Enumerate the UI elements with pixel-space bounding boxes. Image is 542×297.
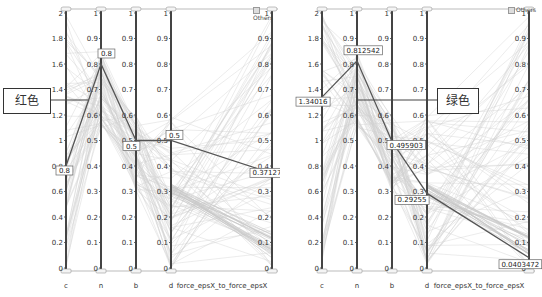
- svg-text:0.3: 0.3: [122, 188, 133, 196]
- legend-swatch-icon: [508, 7, 515, 14]
- svg-text:0: 0: [129, 265, 133, 273]
- svg-text:0.1: 0.1: [87, 239, 98, 247]
- svg-text:0: 0: [385, 265, 389, 273]
- svg-text:0: 0: [164, 265, 168, 273]
- svg-text:0.2: 0.2: [157, 214, 168, 222]
- axis-label: c: [64, 282, 68, 290]
- svg-text:0.8: 0.8: [343, 61, 354, 69]
- svg-text:0.4: 0.4: [157, 163, 169, 171]
- value-label-n: 0.8: [98, 49, 115, 58]
- svg-text:0.2: 0.2: [87, 214, 98, 222]
- svg-text:0: 0: [94, 265, 98, 273]
- axis-label: d: [169, 282, 173, 290]
- svg-text:0.2: 0.2: [378, 214, 389, 222]
- svg-text:0.8: 0.8: [515, 61, 526, 69]
- svg-text:1.4: 1.4: [308, 86, 320, 94]
- right-parallel-plot: 00.20.40.60.811.21.41.61.82c00.10.20.30.…: [256, 0, 542, 297]
- svg-text:0.2: 0.2: [122, 214, 133, 222]
- svg-text:1.8: 1.8: [308, 35, 319, 43]
- svg-text:0.6: 0.6: [308, 188, 320, 196]
- svg-text:0.6: 0.6: [343, 112, 355, 120]
- svg-text:0.9: 0.9: [343, 35, 354, 43]
- svg-text:0.7: 0.7: [122, 86, 133, 94]
- svg-text:1: 1: [59, 137, 63, 145]
- svg-text:0.4: 0.4: [87, 163, 99, 171]
- axis-label: b: [390, 282, 395, 290]
- legend-others[interactable]: Others: [508, 6, 536, 14]
- svg-text:0.5: 0.5: [515, 137, 526, 145]
- svg-text:0.7: 0.7: [343, 86, 354, 94]
- axis-label: force_epsX_to_force_epsX: [177, 282, 268, 290]
- svg-text:0.5: 0.5: [343, 137, 354, 145]
- svg-text:0.9: 0.9: [122, 35, 133, 43]
- svg-text:0.9: 0.9: [515, 35, 526, 43]
- svg-text:0.3: 0.3: [515, 188, 526, 196]
- svg-text:1.6: 1.6: [308, 61, 320, 69]
- svg-text:1: 1: [315, 137, 319, 145]
- svg-text:0.4: 0.4: [52, 214, 64, 222]
- svg-text:0.4: 0.4: [413, 163, 425, 171]
- svg-text:0.495903: 0.495903: [389, 142, 422, 150]
- svg-text:0.1: 0.1: [122, 239, 133, 247]
- svg-text:0.1: 0.1: [157, 239, 168, 247]
- svg-text:0.6: 0.6: [157, 112, 169, 120]
- callout-label: 绿色: [446, 94, 470, 108]
- value-label-d: 0.29255: [395, 195, 429, 204]
- svg-text:0.4: 0.4: [515, 163, 527, 171]
- svg-text:1.34016: 1.34016: [299, 98, 328, 106]
- axis-label: b: [134, 282, 139, 290]
- svg-text:0.4: 0.4: [308, 214, 320, 222]
- svg-text:0.8: 0.8: [378, 61, 389, 69]
- svg-text:0.7: 0.7: [413, 86, 424, 94]
- value-label-d: 0.5: [166, 131, 183, 140]
- svg-text:0: 0: [59, 265, 63, 273]
- svg-text:0.9: 0.9: [378, 35, 389, 43]
- value-label-b: 0.495903: [387, 141, 425, 150]
- callout-green: 绿色: [437, 88, 479, 114]
- svg-text:0.2: 0.2: [413, 214, 424, 222]
- svg-text:0.6: 0.6: [87, 112, 99, 120]
- svg-text:1.2: 1.2: [52, 112, 63, 120]
- svg-text:0.0403472: 0.0403472: [501, 261, 539, 269]
- axis-c[interactable]: 00.20.40.60.811.21.41.61.82c: [52, 7, 71, 290]
- svg-text:2: 2: [59, 10, 63, 18]
- svg-text:0.1: 0.1: [378, 239, 389, 247]
- svg-text:0.1: 0.1: [343, 239, 354, 247]
- axis-label: n: [99, 282, 103, 290]
- svg-text:1.4: 1.4: [52, 86, 64, 94]
- svg-text:0.8: 0.8: [122, 61, 133, 69]
- left-plot-canvas: 00.20.40.60.811.21.41.61.82c00.10.20.30.…: [0, 0, 280, 297]
- svg-text:0.7: 0.7: [515, 86, 526, 94]
- svg-text:0.1: 0.1: [413, 239, 424, 247]
- svg-text:1: 1: [385, 10, 389, 18]
- legend-label: Others: [516, 6, 536, 13]
- value-label-b: 0.5: [123, 142, 140, 151]
- svg-text:0.2: 0.2: [308, 239, 319, 247]
- svg-text:1: 1: [420, 10, 424, 18]
- svg-text:0.2: 0.2: [52, 239, 63, 247]
- svg-text:1.8: 1.8: [52, 35, 63, 43]
- svg-text:1: 1: [164, 10, 168, 18]
- svg-text:0.8: 0.8: [87, 61, 98, 69]
- svg-text:0.5: 0.5: [126, 143, 137, 151]
- axis-d[interactable]: 00.10.20.30.40.50.60.70.80.91d: [157, 7, 176, 290]
- callout-red: 红色: [3, 88, 51, 114]
- svg-text:0.6: 0.6: [515, 112, 527, 120]
- svg-text:0.8: 0.8: [413, 61, 424, 69]
- svg-text:1: 1: [94, 10, 98, 18]
- svg-text:0.3: 0.3: [157, 188, 168, 196]
- svg-text:0.3: 0.3: [378, 188, 389, 196]
- svg-text:0: 0: [420, 265, 424, 273]
- value-label-n: 0.812542: [344, 46, 382, 55]
- svg-text:0.7: 0.7: [378, 86, 389, 94]
- callout-label: 红色: [15, 94, 39, 108]
- svg-text:0.8: 0.8: [59, 167, 70, 175]
- svg-text:0.5: 0.5: [169, 132, 180, 140]
- axis-label: n: [355, 282, 359, 290]
- svg-text:0.9: 0.9: [413, 35, 424, 43]
- svg-text:1: 1: [129, 10, 133, 18]
- right-plot-canvas: 00.20.40.60.811.21.41.61.82c00.10.20.30.…: [256, 0, 542, 297]
- svg-text:0.2: 0.2: [515, 214, 526, 222]
- svg-text:0.4: 0.4: [122, 163, 134, 171]
- svg-text:0.1: 0.1: [515, 239, 526, 247]
